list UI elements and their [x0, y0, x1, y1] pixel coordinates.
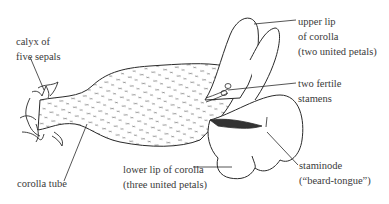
upper-lip-shape	[205, 18, 280, 100]
label-staminode: staminode (“beard-tongue”)	[299, 158, 371, 188]
flower-diagram: calyx of five sepals corolla tube lower …	[0, 0, 389, 204]
corolla-tube-shape	[38, 64, 235, 147]
label-calyx: calyx of five sepals	[16, 34, 61, 64]
label-stamens: two fertile stamens	[298, 76, 341, 106]
label-upper-lip: upper lip of corolla (two united petals)	[298, 14, 377, 59]
label-corolla-tube: corolla tube	[17, 176, 67, 191]
label-lower-lip: lower lip of corolla (three united petal…	[123, 162, 207, 192]
